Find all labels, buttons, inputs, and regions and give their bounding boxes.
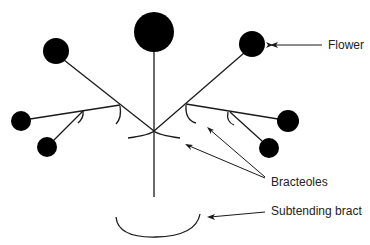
bracteole-left-node bbox=[116, 106, 121, 124]
flower-upper-right bbox=[239, 31, 265, 57]
arrow-subtending-bract bbox=[210, 212, 265, 217]
flower-terminal bbox=[134, 12, 174, 52]
arrow-bracteole-2 bbox=[187, 145, 265, 178]
branch-lower-right bbox=[230, 112, 262, 141]
flower-far-left bbox=[11, 111, 31, 131]
branch-lower-left bbox=[54, 111, 83, 140]
branch-far-left bbox=[30, 105, 120, 119]
label-subtending-bract: Subtending bract bbox=[271, 204, 362, 218]
subtending-bract bbox=[116, 214, 200, 237]
flower-lower-left bbox=[37, 137, 57, 157]
branch-far-right bbox=[186, 104, 278, 119]
arrowhead-bracteole-1-icon bbox=[207, 127, 214, 134]
label-bracteoles: Bracteoles bbox=[271, 175, 328, 189]
flower-upper-left bbox=[43, 38, 69, 64]
inflorescence-diagram: Flower Bracteoles Subtending bract bbox=[0, 0, 370, 245]
branch-upper-left bbox=[64, 60, 154, 131]
flower-far-right bbox=[277, 110, 299, 132]
bracteole-right-node bbox=[186, 105, 196, 123]
branch-upper-right bbox=[154, 53, 244, 131]
label-flower: Flower bbox=[328, 38, 364, 52]
flower-lower-right bbox=[259, 138, 279, 158]
